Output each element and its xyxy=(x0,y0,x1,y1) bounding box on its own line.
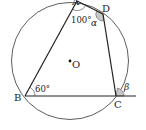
angle-b-value: 60° xyxy=(35,84,50,94)
angle-beta-label: β xyxy=(123,82,129,92)
angle-alpha-label: α xyxy=(91,18,97,28)
angle-a-value: 100° xyxy=(71,15,91,25)
label-a: A xyxy=(71,0,80,7)
label-o: O xyxy=(72,59,80,70)
angle-beta-marker xyxy=(116,88,124,96)
side-ad xyxy=(77,1,103,14)
geometry-diagram: A D B C O 100° 60° α β xyxy=(0,0,146,130)
side-ab xyxy=(25,1,77,96)
label-d: D xyxy=(102,3,110,14)
side-dc xyxy=(103,14,116,96)
label-b: B xyxy=(14,92,21,103)
center-point xyxy=(69,60,72,63)
label-c: C xyxy=(114,99,122,110)
